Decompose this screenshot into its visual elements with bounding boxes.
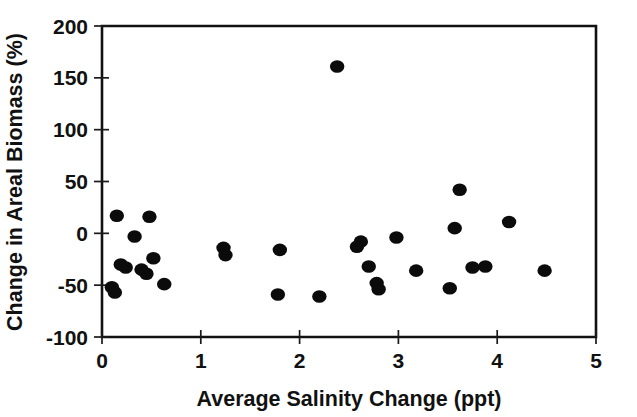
x-tick-label: 4 [491,349,503,372]
data-point [452,183,466,196]
x-tick-label: 3 [393,349,405,372]
axes-frame [102,26,596,337]
y-tick-label: 0 [76,222,88,245]
y-axis-tick-labels: -100-50050100150200 [46,15,88,349]
data-point [218,249,232,262]
data-point [119,261,133,274]
data-point [139,267,153,280]
data-point [108,286,122,299]
y-tick-label: 100 [53,118,88,141]
data-point [448,222,462,235]
data-point [362,260,376,273]
data-point [371,283,385,296]
y-tick-label: -100 [46,326,88,349]
data-point [478,260,492,273]
data-point [273,244,287,257]
x-tick-label: 2 [294,349,306,372]
data-point-group [105,60,552,303]
data-point [271,288,285,301]
data-point [502,216,516,229]
data-point [330,60,344,73]
x-tick-label: 1 [195,349,207,372]
scatter-plot-figure: 012345 -100-50050100150200 Average Salin… [0,0,637,417]
x-axis-title: Average Salinity Change (ppt) [196,387,501,411]
y-tick-label: -50 [58,274,88,297]
data-point [409,264,423,277]
y-axis-title: Change in Areal Biomass (%) [3,33,27,331]
data-point [146,252,160,265]
data-point [354,235,368,248]
data-point [389,231,403,244]
data-point [142,210,156,223]
y-tick-label: 150 [53,66,88,89]
data-point [537,264,551,277]
plot-canvas: 012345 -100-50050100150200 Average Salin… [0,0,637,417]
data-point [312,290,326,303]
x-tick-label: 0 [96,349,108,372]
x-axis-tick-labels: 012345 [96,349,602,372]
data-point [157,278,171,291]
y-tick-label: 200 [53,15,88,38]
y-tick-label: 50 [65,170,88,193]
data-point [127,230,141,243]
data-point [443,282,457,295]
data-point [110,209,124,222]
data-point [465,261,479,274]
axes-box [102,26,596,337]
x-tick-label: 5 [590,349,602,372]
